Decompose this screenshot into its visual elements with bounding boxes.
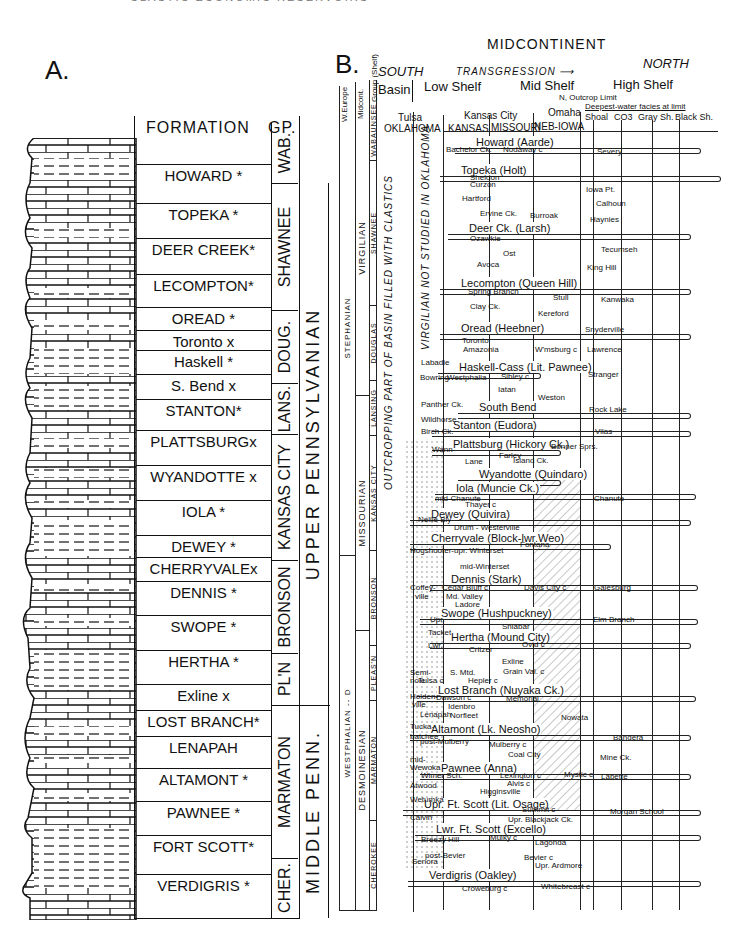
member-label: Lenapah bbox=[420, 710, 451, 719]
midcont-label: MISSOURIAN bbox=[357, 479, 367, 546]
formation-divider bbox=[136, 736, 271, 737]
member-label: Idenbro bbox=[448, 702, 475, 711]
member-label: Avoca bbox=[477, 260, 499, 269]
city-tulsa: Tulsa bbox=[398, 112, 422, 123]
member-label: Lagonda bbox=[535, 838, 566, 847]
member-label: Lane bbox=[465, 457, 483, 466]
formation-label: DENNIS * bbox=[136, 585, 271, 600]
north-label: NORTH bbox=[643, 56, 689, 71]
formation-divider bbox=[136, 615, 271, 616]
formation-label: STANTON* bbox=[136, 403, 271, 418]
formation-divider bbox=[136, 535, 271, 536]
formation-divider bbox=[136, 465, 271, 466]
formation-divider bbox=[136, 399, 271, 400]
stage-cell: KANSAS CITY bbox=[369, 435, 377, 551]
facies-black-shale: Black Sh. bbox=[675, 112, 713, 122]
stage-cell: STEPHANIAN bbox=[339, 100, 355, 556]
member-label: Clay Ck. bbox=[470, 302, 500, 311]
basin-divider bbox=[412, 80, 413, 102]
groups-label: CHEROKEE bbox=[370, 841, 377, 888]
member-label: Labette bbox=[601, 772, 628, 781]
groups-label: LANSING bbox=[370, 389, 377, 427]
member-label: Spring Branch bbox=[468, 287, 519, 296]
formation-label: SWOPE * bbox=[136, 619, 271, 634]
cyclothem-tongue bbox=[410, 520, 691, 526]
oklahoma-note-virgilian: VIRGILIAN NOT STUDIED IN OKLAHOMA bbox=[420, 170, 431, 350]
member-label: Island Ck. bbox=[513, 456, 549, 465]
europe-label: STEPHANIAN bbox=[343, 297, 352, 358]
member-label: Rock Lake bbox=[589, 405, 627, 414]
member-label: Mine Ck. bbox=[600, 753, 632, 762]
series-cell: MIDDLE PENN. bbox=[298, 705, 328, 918]
member-label: Higginsville bbox=[480, 787, 520, 796]
cyclothem-label: Altamont (Lk. Neosho) bbox=[430, 723, 541, 735]
group-label: MARMATON bbox=[276, 736, 294, 828]
member-label: post-Mulberry bbox=[420, 737, 469, 746]
zone-low-shelf: Low Shelf bbox=[424, 79, 481, 94]
formation-divider bbox=[136, 684, 271, 685]
member-label: Cedar Bluff c bbox=[442, 583, 488, 592]
formation-label: S. Bend x bbox=[136, 378, 271, 393]
formation-label: OREAD * bbox=[136, 311, 271, 326]
stage-cell: CHEROKEE bbox=[369, 820, 377, 911]
member-label: Panther Ck. bbox=[421, 400, 463, 409]
formation-divider bbox=[136, 710, 271, 711]
deepest-facies-label: Deepest-water facies at limit bbox=[585, 102, 685, 111]
cyclothem-tongue bbox=[455, 148, 701, 154]
member-label: Hepler c bbox=[468, 676, 498, 685]
member-label: Sniabar bbox=[502, 622, 530, 631]
formation-label: PAWNEE * bbox=[136, 805, 271, 820]
arrow-right-icon: ⟶ bbox=[559, 66, 574, 77]
formation-divider bbox=[136, 557, 271, 558]
member-label: Davis City c bbox=[524, 583, 566, 592]
member-label: Curzon bbox=[470, 180, 496, 189]
stage-cell: WESTPHALIAN -- D bbox=[339, 555, 355, 911]
formation-divider bbox=[136, 874, 271, 875]
member-label: Stull bbox=[553, 293, 569, 302]
member-label: Birch Ck. bbox=[421, 427, 453, 436]
group-cell: WAB. bbox=[271, 123, 298, 184]
member-label: King Hill bbox=[587, 263, 616, 272]
lithology-column-icon bbox=[12, 138, 138, 920]
cyclothem-label: Stanton (Eudora) bbox=[452, 419, 538, 431]
formation-divider bbox=[136, 768, 271, 769]
member-label: Thayer c bbox=[465, 500, 496, 509]
member-label: Kanwaka bbox=[601, 295, 634, 304]
stage-cell: VIRGILIAN bbox=[355, 100, 369, 396]
formation-label: LENAPAH bbox=[136, 740, 271, 755]
member-label: Haynies bbox=[590, 215, 619, 224]
stage-cell: WABAUNSEE bbox=[369, 100, 377, 161]
groups-label: MARMATON bbox=[370, 736, 377, 784]
group-cell: PL'N bbox=[271, 653, 298, 706]
group-label: KANSAS CITY bbox=[276, 444, 294, 550]
member-label: Summit c bbox=[522, 805, 555, 814]
formation-divider bbox=[136, 238, 271, 239]
formation-label: WYANDOTTE x bbox=[136, 469, 271, 484]
member-label: Ost bbox=[503, 249, 515, 258]
member-label: Dawson c bbox=[436, 693, 471, 702]
oklahoma-note-outcropping: OUTCROPPING PART OF BASIN FILLED WITH CL… bbox=[383, 190, 394, 490]
facies-gray-shale: Gray Sh. bbox=[638, 112, 674, 122]
zone-mid-shelf: Mid Shelf bbox=[520, 78, 574, 93]
member-label: Bandera bbox=[613, 733, 643, 742]
member-label: Ozawkie bbox=[470, 234, 501, 243]
groups-label: BRONSON bbox=[370, 576, 377, 618]
formation-divider bbox=[136, 274, 271, 275]
member-label: Stranger bbox=[588, 370, 619, 379]
stage-cell: LANSING bbox=[369, 380, 377, 436]
member-label: Ervine Ck. bbox=[480, 209, 517, 218]
formation-divider bbox=[136, 350, 271, 351]
cyclothem-tongue bbox=[420, 619, 698, 625]
formation-label: DEWEY * bbox=[136, 539, 271, 554]
stage-cell: MARMATON bbox=[369, 700, 377, 821]
member-label: Tulsa c bbox=[418, 676, 444, 685]
groups-label: WABAUNSEE bbox=[370, 103, 377, 156]
stage-cell: MISSOURIAN bbox=[355, 395, 369, 631]
col-header-group-shelf: Group (Shelf) bbox=[370, 62, 379, 102]
member-label: Weston bbox=[538, 393, 565, 402]
member-label: Senora bbox=[412, 857, 438, 866]
formation-label: IOLA * bbox=[136, 504, 271, 519]
member-label: mid-Winterset bbox=[460, 562, 509, 571]
member-label: Memorial bbox=[506, 694, 539, 703]
group-label: LANS. bbox=[276, 385, 294, 431]
